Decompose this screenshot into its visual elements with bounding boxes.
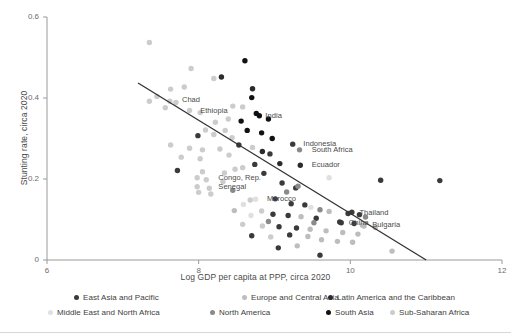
legend-item[interactable]: East Asia and Pacific xyxy=(74,293,159,302)
data-point xyxy=(207,186,212,191)
data-point xyxy=(270,212,275,217)
data-point xyxy=(298,214,303,219)
data-point xyxy=(194,175,199,180)
data-point xyxy=(196,190,201,195)
data-point xyxy=(326,175,331,180)
legend-item[interactable]: Sub-Saharan Africa xyxy=(390,308,469,317)
data-point xyxy=(163,105,168,110)
legend-swatch-icon xyxy=(242,295,247,300)
data-point xyxy=(307,227,312,232)
data-point xyxy=(267,151,272,156)
point-label: Ethiopia xyxy=(200,106,228,115)
data-point xyxy=(339,220,344,225)
data-point xyxy=(266,219,271,224)
data-point xyxy=(241,202,246,207)
point-label: Thailand xyxy=(359,208,388,217)
data-point xyxy=(335,239,340,244)
data-point xyxy=(295,184,300,189)
point-label: Bulgaria xyxy=(372,220,400,229)
point-label: South Africa xyxy=(312,145,353,154)
data-point xyxy=(223,128,228,133)
data-point xyxy=(285,213,290,218)
data-point xyxy=(276,245,281,250)
data-point xyxy=(240,165,245,170)
data-point xyxy=(217,146,222,151)
y-tick-label: 0 xyxy=(0,255,39,264)
data-point xyxy=(200,147,205,152)
y-axis-ticks xyxy=(43,17,47,260)
data-point xyxy=(295,243,300,248)
bottom-divider xyxy=(0,332,511,333)
data-point xyxy=(204,177,209,182)
data-point xyxy=(294,225,299,230)
data-point xyxy=(238,118,243,123)
legend-item[interactable]: Europe and Central Asia xyxy=(242,293,339,302)
data-point xyxy=(240,222,245,227)
data-point xyxy=(168,86,173,91)
point-label: Chad xyxy=(182,95,200,104)
data-point xyxy=(317,207,322,212)
point-label: China xyxy=(349,218,369,227)
data-point xyxy=(226,152,231,157)
data-point xyxy=(277,161,282,166)
data-point xyxy=(230,103,235,108)
data-point xyxy=(195,133,200,138)
data-point xyxy=(179,154,184,159)
legend-swatch-icon xyxy=(48,310,53,315)
data-point xyxy=(197,156,202,161)
x-axis-title: Log GDP per capita at PPP, circa 2020 xyxy=(0,272,511,282)
data-point xyxy=(297,147,302,152)
regression-line xyxy=(138,83,426,260)
data-point xyxy=(211,76,216,81)
data-point xyxy=(188,66,193,71)
data-point xyxy=(253,197,258,202)
data-point xyxy=(270,136,275,141)
data-point xyxy=(232,167,237,172)
legend-swatch-icon xyxy=(390,310,395,315)
data-point xyxy=(340,230,345,235)
data-point xyxy=(257,113,262,118)
point-label: India xyxy=(265,111,282,120)
point-label: Senegal xyxy=(218,182,246,191)
data-point xyxy=(240,104,245,109)
data-point xyxy=(175,168,180,173)
data-point xyxy=(350,239,355,244)
data-point xyxy=(249,233,254,238)
data-point xyxy=(250,86,255,91)
data-point xyxy=(378,178,383,183)
data-point xyxy=(259,130,264,135)
data-point xyxy=(208,191,213,196)
legend-label: North America xyxy=(219,308,270,317)
data-point xyxy=(182,84,187,89)
data-point xyxy=(194,184,199,189)
point-label: Congo, Rep. xyxy=(218,173,261,182)
data-point xyxy=(276,224,281,229)
data-point xyxy=(268,234,273,239)
data-point xyxy=(326,209,331,214)
legend-label: Sub-Saharan Africa xyxy=(399,308,469,317)
legend-item[interactable]: Latin America and the Caribbean xyxy=(328,293,455,302)
legend-item[interactable]: South Asia xyxy=(326,308,374,317)
legend-item[interactable]: North America xyxy=(210,308,270,317)
data-point xyxy=(147,99,152,104)
data-point xyxy=(323,228,328,233)
data-point xyxy=(147,40,152,45)
legend-label: Latin America and the Caribbean xyxy=(337,293,455,302)
data-point xyxy=(305,234,310,239)
data-point xyxy=(203,127,208,132)
data-point xyxy=(219,74,224,79)
data-point xyxy=(298,163,303,168)
trend-line xyxy=(138,83,426,260)
legend-label: Middle East and North Africa xyxy=(57,308,160,317)
legend-item[interactable]: Middle East and North Africa xyxy=(48,308,160,317)
data-point xyxy=(389,248,394,253)
data-point xyxy=(200,169,205,174)
data-point xyxy=(168,142,173,147)
x-axis-ticks xyxy=(47,260,502,264)
data-point xyxy=(260,149,265,154)
point-label: Morocco xyxy=(267,194,296,203)
point-label: Ecuador xyxy=(312,160,340,169)
data-point xyxy=(213,120,218,125)
legend-label: South Asia xyxy=(335,308,374,317)
data-point xyxy=(355,231,360,236)
